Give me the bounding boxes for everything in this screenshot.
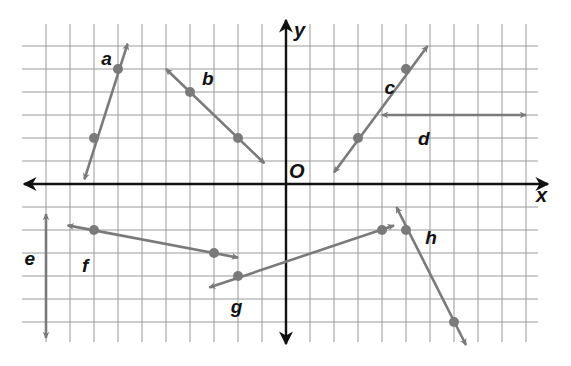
line-g: g bbox=[209, 225, 394, 317]
line-h-point bbox=[401, 225, 411, 235]
line-c-point bbox=[353, 133, 363, 143]
line-b-point bbox=[233, 133, 243, 143]
x-axis-label: x bbox=[535, 184, 548, 206]
line-a-point bbox=[113, 64, 123, 74]
line-g-label: g bbox=[230, 296, 243, 317]
line-a-point bbox=[89, 133, 99, 143]
line-g-point bbox=[233, 271, 243, 281]
line-c-point bbox=[401, 64, 411, 74]
line-e-label: e bbox=[24, 248, 35, 269]
y-axis-label: y bbox=[293, 19, 306, 41]
line-f-label: f bbox=[82, 255, 90, 276]
line-f: f bbox=[68, 225, 238, 276]
line-c: c bbox=[334, 46, 428, 173]
line-b: b bbox=[166, 68, 264, 163]
line-f-point bbox=[89, 225, 99, 235]
line-b-label: b bbox=[202, 68, 214, 89]
line-b-segment bbox=[166, 69, 264, 163]
lines-group: abcdefgh bbox=[24, 44, 526, 345]
line-h-point bbox=[449, 317, 459, 327]
line-h-label: h bbox=[425, 227, 437, 248]
line-a: a bbox=[84, 44, 127, 180]
coordinate-grid-diagram: abcdefgh x y O bbox=[0, 0, 571, 366]
line-a-label: a bbox=[101, 48, 112, 69]
line-f-point bbox=[209, 248, 219, 258]
line-c-segment bbox=[334, 46, 428, 173]
origin-label: O bbox=[289, 160, 305, 182]
line-c-label: c bbox=[384, 77, 395, 98]
line-b-point bbox=[185, 87, 195, 97]
line-g-point bbox=[377, 225, 387, 235]
line-d-label: d bbox=[418, 128, 430, 149]
